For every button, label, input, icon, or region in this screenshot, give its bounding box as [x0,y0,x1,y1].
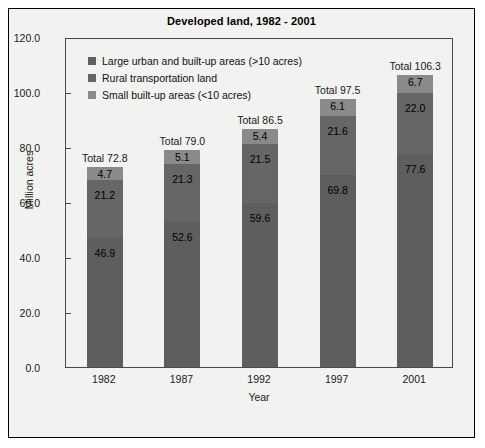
bar-segment-value-label: 46.9 [95,248,115,259]
bar-segment-value-label: 52.6 [172,232,192,243]
bar-segment-small-built-up[interactable]: 4.7 [87,167,123,180]
x-axis-tick-label: 1997 [302,373,372,385]
bar-segment-value-label: 6.1 [330,101,345,112]
bar-segment-value-label: 21.5 [250,154,270,165]
legend-swatch-icon [88,74,96,82]
bar-stack[interactable]: 6.722.077.6 [397,75,433,367]
bar-stack[interactable]: 4.721.246.9 [87,167,123,367]
bar-segment-small-built-up[interactable]: 5.4 [242,129,278,144]
legend-item: Large urban and built-up areas (>10 acre… [88,53,302,68]
bar-segment-large-urban[interactable]: 46.9 [87,238,123,367]
bar-group[interactable]: 5.421.559.6 [242,129,278,367]
y-axis-tick-label: 20.0 [0,307,40,319]
bar-segment-value-label: 6.7 [408,77,423,88]
y-axis-title: Million acres [23,120,35,240]
bar-segment-small-built-up[interactable]: 6.7 [397,75,433,93]
bar-segment-value-label: 77.6 [405,164,425,175]
bar-stack[interactable]: 6.121.669.8 [320,99,356,367]
x-axis-tick-label: 1992 [224,373,294,385]
y-axis-tick-mark [65,148,71,149]
bar-segment-rural-transportation[interactable]: 21.3 [164,164,200,223]
bar-segment-rural-transportation[interactable]: 21.5 [242,144,278,203]
bar-segment-value-label: 5.4 [253,131,268,142]
bar-total-label: Total 86.5 [237,114,283,126]
bar-segment-rural-transportation[interactable]: 21.6 [320,116,356,175]
y-axis-tick-mark [65,258,71,259]
bar-total-label: Total 97.5 [315,84,361,96]
legend-item: Small built-up areas (<10 acres) [88,87,302,102]
bar-group[interactable]: 6.722.077.6 [397,75,433,367]
legend-item-label: Large urban and built-up areas (>10 acre… [102,55,302,67]
bar-segment-value-label: 21.2 [95,190,115,201]
chart-title: Developed land, 1982 - 2001 [9,15,474,27]
bar-segment-large-urban[interactable]: 59.6 [242,203,278,367]
legend-item-label: Rural transportation land [102,72,217,84]
bar-total-label: Total 72.8 [82,152,128,164]
y-axis-tick-mark [65,313,71,314]
plot-area: Large urban and built-up areas (>10 acre… [65,38,453,368]
bar-segment-rural-transportation[interactable]: 22.0 [397,93,433,154]
bar-total-label: Total 79.0 [160,135,206,147]
bar-segment-value-label: 21.3 [172,174,192,185]
bar-segment-value-label: 69.8 [327,185,347,196]
bar-segment-value-label: 22.0 [405,103,425,114]
bar-stack[interactable]: 5.121.352.6 [164,150,200,367]
x-axis-tick-label: 2001 [379,373,449,385]
bar-segment-small-built-up[interactable]: 6.1 [320,99,356,116]
bar-segment-value-label: 59.6 [250,213,270,224]
bar-group[interactable]: 5.121.352.6 [164,150,200,367]
x-axis-tick-label: 1987 [146,373,216,385]
bar-group[interactable]: 4.721.246.9 [87,167,123,367]
y-axis-tick-mark [65,93,71,94]
y-axis-tick-label: 0.0 [0,362,40,374]
bar-segment-rural-transportation[interactable]: 21.2 [87,180,123,238]
legend-item: Rural transportation land [88,70,302,85]
bar-segment-large-urban[interactable]: 77.6 [397,154,433,367]
bar-stack[interactable]: 5.421.559.6 [242,129,278,367]
y-axis-tick-label: 80.0 [0,142,40,154]
x-axis-tick-label: 1982 [69,373,139,385]
y-axis-tick-mark [65,203,71,204]
bar-total-label: Total 106.3 [390,60,441,72]
bar-segment-small-built-up[interactable]: 5.1 [164,150,200,164]
legend-item-label: Small built-up areas (<10 acres) [102,89,251,101]
bar-segment-value-label: 4.7 [97,169,112,180]
bar-segment-large-urban[interactable]: 52.6 [164,222,200,367]
bar-segment-value-label: 21.6 [327,126,347,137]
chart-legend: Large urban and built-up areas (>10 acre… [88,53,302,104]
y-axis-tick-label: 40.0 [0,252,40,264]
bar-segment-large-urban[interactable]: 69.8 [320,175,356,367]
y-axis-tick-label: 60.0 [0,197,40,209]
legend-swatch-icon [88,57,96,65]
bar-group[interactable]: 6.121.669.8 [320,99,356,367]
bar-segment-value-label: 5.1 [175,152,190,163]
y-axis-tick-label: 120.0 [0,32,40,44]
legend-swatch-icon [88,91,96,99]
chart-figure: Developed land, 1982 - 2001 Million acre… [8,8,475,438]
y-axis-tick-label: 100.0 [0,87,40,99]
x-axis-title: Year [65,391,453,403]
